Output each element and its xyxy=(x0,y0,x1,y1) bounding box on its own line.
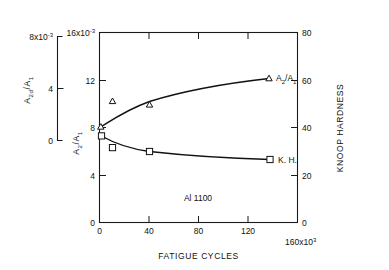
series-a2-a1-marker-3 xyxy=(266,75,272,81)
svg-text:KNOOP HARDNESS: KNOOP HARDNESS xyxy=(335,84,345,173)
axis-right: 80 60 40 20 0 KNOOP HARDNESS xyxy=(291,28,345,228)
series-knoop-hardness: K. H. xyxy=(98,133,297,165)
axis-x: 0 40 80 120 160x103 FATIGUE CYCLES xyxy=(97,33,317,262)
right-ticklabel-80: 80 xyxy=(302,28,312,38)
x-ticklabel-0: 0 xyxy=(97,226,102,236)
series-knoop-hardness-marker-3 xyxy=(267,156,273,162)
inner-left-ticklabel-0: 0 xyxy=(90,218,95,228)
series-knoop-hardness-marker-0 xyxy=(98,133,104,139)
series-a2-a1: A2/A1 xyxy=(98,73,297,129)
svg-text:A2/A1: A2/A1 xyxy=(71,131,83,154)
inner-left-ticklabel-12: 12 xyxy=(86,76,96,86)
material-annotation: Al 1100 xyxy=(184,193,212,203)
chart-svg: 8x10-3 4 0 A2d/A1 16x10-3 12 8 4 0 A2/A1… xyxy=(0,0,389,270)
inner-left-ticklabel-4: 4 xyxy=(90,171,95,181)
right-ticklabel-60: 60 xyxy=(302,76,312,86)
series-a2-a1-curve xyxy=(101,79,269,128)
x-axis-title: FATIGUE CYCLES xyxy=(158,251,239,261)
inner-left-ticklabel-8: 8 xyxy=(90,123,95,133)
series-knoop-hardness-annotation: K. H. xyxy=(278,155,297,165)
series-a2-a1-marker-1 xyxy=(109,98,115,104)
series-knoop-hardness-marker-2 xyxy=(146,148,152,154)
x-ticklabel-120: 120 xyxy=(241,226,255,236)
x-ticklabel-80: 80 xyxy=(194,226,204,236)
inner-left-axis-title: A2/A1 xyxy=(71,131,83,154)
outer-left-ticklabel-0: 0 xyxy=(48,136,53,146)
right-ticklabel-20: 20 xyxy=(302,171,312,181)
x-ticklabel-160: 160x103 xyxy=(285,237,317,248)
inner-left-ticklabel-16: 16x10-3 xyxy=(66,28,95,39)
right-ticklabel-40: 40 xyxy=(302,123,312,133)
outer-left-axis-title: A2d/A1 xyxy=(22,76,34,103)
axis-outer-left: 8x10-3 4 0 A2d/A1 xyxy=(22,32,64,146)
x-ticklabel-40: 40 xyxy=(144,226,154,236)
series-a2-a1-annotation: A2/A1 xyxy=(276,73,297,85)
outer-left-ticklabel-4: 4 xyxy=(48,84,53,94)
chart-figure: 8x10-3 4 0 A2d/A1 16x10-3 12 8 4 0 A2/A1… xyxy=(0,0,389,270)
series-knoop-hardness-marker-1 xyxy=(109,145,115,151)
outer-left-ticklabel-8: 8x10-3 xyxy=(29,32,53,43)
series-knoop-hardness-curve xyxy=(102,136,271,160)
right-axis-title: KNOOP HARDNESS xyxy=(335,84,345,173)
svg-text:A2d/A1: A2d/A1 xyxy=(22,76,34,103)
right-ticklabel-0: 0 xyxy=(302,218,307,228)
